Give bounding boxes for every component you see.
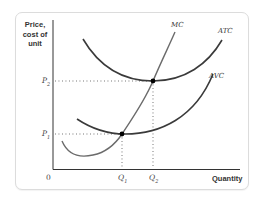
p2-tick-label: P2 xyxy=(42,76,50,87)
avc-min-point xyxy=(120,132,125,137)
x-axis-label: Quantity xyxy=(212,174,242,183)
y-axis-label-line2: cost of xyxy=(18,30,52,40)
q2-tick-label: Q2 xyxy=(149,173,158,184)
atc-curve xyxy=(83,39,222,81)
atc-curve-label: ATC xyxy=(218,27,233,35)
p1-tick-label: P1 xyxy=(42,129,50,140)
avc-curve-label: AVC xyxy=(209,72,224,80)
avc-curve xyxy=(77,74,213,134)
y-axis-label: Price, cost of unit xyxy=(18,20,52,49)
mc-curve xyxy=(62,32,175,156)
y-axis-label-line1: Price, xyxy=(18,20,52,30)
atc-min-point xyxy=(151,79,156,84)
mc-curve-label: MC xyxy=(171,21,184,29)
q1-tick-label: Q1 xyxy=(118,173,127,184)
y-axis-label-line3: unit xyxy=(18,39,52,49)
origin-label: 0 xyxy=(46,173,51,182)
